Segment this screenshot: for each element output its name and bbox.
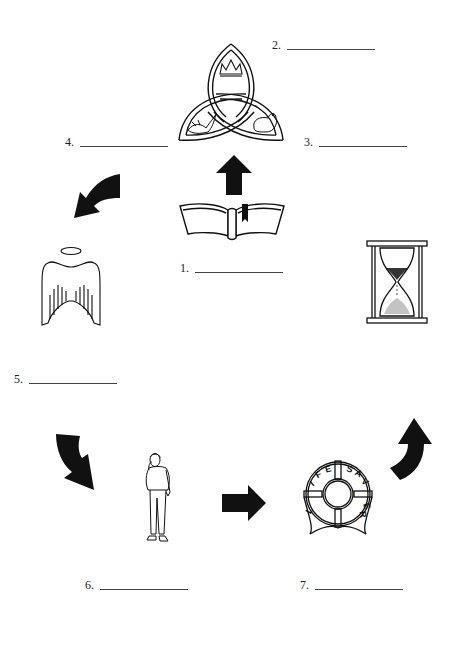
answer-label-3: 3. — [304, 135, 407, 150]
open-bible-icon — [178, 198, 286, 240]
arrow-curved-down-right-icon — [56, 434, 94, 490]
trinity-knot-icon — [176, 42, 286, 144]
standing-person-icon — [140, 452, 174, 544]
label-number: 1. — [180, 261, 189, 276]
answer-label-2: 2. — [272, 38, 375, 53]
angel-wings-halo-icon — [40, 245, 102, 327]
arrow-curved-up-right-icon — [390, 418, 432, 480]
answer-label-1: 1. — [180, 261, 283, 276]
answer-label-6: 6. — [85, 578, 188, 593]
answer-blank[interactable] — [29, 383, 117, 384]
life-saver-letter: S — [346, 463, 354, 474]
label-number: 4. — [65, 135, 74, 150]
crown-icon — [220, 60, 242, 76]
arrow-up-icon — [216, 155, 252, 195]
arrow-curved-down-left-icon — [72, 174, 122, 220]
answer-blank[interactable] — [287, 49, 375, 50]
answer-blank[interactable] — [195, 272, 283, 273]
answer-label-4: 4. — [65, 135, 168, 150]
answer-blank[interactable] — [315, 589, 403, 590]
answer-blank[interactable] — [319, 146, 407, 147]
label-number: 5. — [14, 372, 23, 387]
lamb-icon — [254, 114, 277, 133]
answer-label-5: 5. — [14, 372, 117, 387]
answer-blank[interactable] — [80, 146, 168, 147]
life-saver-letter: F — [314, 468, 324, 480]
hourglass-icon — [366, 240, 428, 324]
life-saver-letter: E — [361, 501, 372, 510]
answer-label-7: 7. — [300, 578, 403, 593]
arrow-right-icon — [222, 485, 266, 521]
label-number: 3. — [304, 135, 313, 150]
life-saver-icon: L I F E S A V E R — [300, 458, 376, 534]
answer-blank[interactable] — [100, 589, 188, 590]
label-number: 6. — [85, 578, 94, 593]
label-number: 7. — [300, 578, 309, 593]
